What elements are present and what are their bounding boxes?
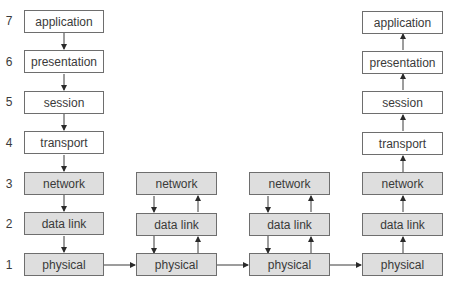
destination-presentation-layer: presentation (362, 51, 443, 74)
router-2-network-layer: network (249, 172, 330, 195)
destination-network-layer: network (362, 172, 443, 195)
source-data-link-layer: data link (24, 212, 104, 235)
source-network-layer: network (24, 172, 104, 195)
layer-number-6: 6 (3, 55, 15, 69)
router-2-data-link-layer: data link (249, 213, 330, 236)
destination-session-layer: session (362, 91, 443, 114)
router-2-physical-layer: physical (249, 253, 330, 276)
router-1-network-layer: network (136, 172, 217, 195)
destination-data-link-layer: data link (362, 213, 443, 236)
source-session-layer: session (24, 91, 104, 114)
source-presentation-layer: presentation (24, 50, 104, 73)
destination-application-layer: application (362, 11, 443, 34)
destination-transport-layer: transport (362, 132, 443, 155)
router-1-physical-layer: physical (136, 253, 217, 276)
layer-number-5: 5 (3, 95, 15, 109)
source-application-layer: application (24, 10, 104, 33)
layer-number-3: 3 (3, 177, 15, 191)
source-physical-layer: physical (24, 253, 104, 276)
source-transport-layer: transport (24, 131, 104, 154)
layer-number-7: 7 (3, 14, 15, 28)
layer-number-1: 1 (3, 258, 15, 272)
layer-number-2: 2 (3, 217, 15, 231)
layer-number-4: 4 (3, 136, 15, 150)
router-1-data-link-layer: data link (136, 213, 217, 236)
destination-physical-layer: physical (362, 253, 443, 276)
